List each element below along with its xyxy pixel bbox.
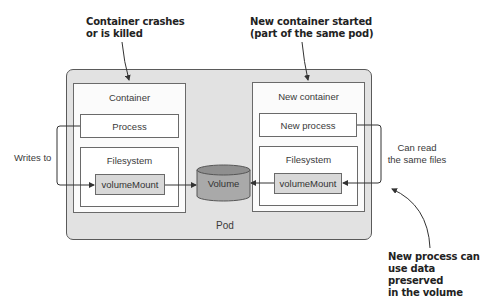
writes-to-arrow [57, 126, 94, 185]
crash-annotation-arrow [122, 42, 129, 80]
writes-to-label: Writes to [14, 152, 51, 164]
new-process-annotation-arrow [392, 189, 430, 248]
can-read-label: Can read the same files [386, 142, 448, 166]
label-line: Can read [386, 142, 448, 154]
annotation-new-process: New process can use data preserved in th… [388, 251, 489, 299]
volume-label: Volume [200, 178, 247, 189]
annotation-line: New process can [388, 251, 489, 263]
label-line: the same files [386, 154, 448, 166]
new-container-annotation-arrow [302, 42, 308, 80]
annotation-line: in the volume [388, 287, 489, 299]
can-read-arrow [343, 125, 381, 183]
annotation-line: use data preserved [388, 263, 489, 287]
